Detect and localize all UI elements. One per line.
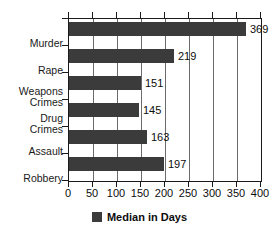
plot-area: 369 219 151 145 163 197 <box>68 18 262 182</box>
bar-value-rape: 219 <box>178 49 196 63</box>
category-label-rape: Rape <box>0 65 63 76</box>
bar-murder <box>69 22 246 36</box>
x-tick-label-150: 150 <box>131 187 149 200</box>
category-axis: Murder Rape Weapons Crimes Drug Crimes A… <box>0 18 66 180</box>
x-tick-label-300: 300 <box>203 187 221 200</box>
x-axis-labels: 0 50 100 150 200 250 300 350 400 <box>0 187 279 201</box>
bar-weapons-crimes <box>69 76 141 90</box>
x-tick-label-100: 100 <box>107 187 125 200</box>
bar-value-murder: 369 <box>250 22 268 36</box>
x-tick-label-50: 50 <box>86 187 98 200</box>
category-label-assault: Assault <box>0 146 63 157</box>
x-tick-label-400: 400 <box>251 187 269 200</box>
category-label-drug-crimes: Drug Crimes <box>0 113 63 135</box>
x-tick-label-350: 350 <box>227 187 245 200</box>
bar-value-assault: 163 <box>151 130 169 144</box>
bars-layer: 369 219 151 145 163 197 <box>69 19 261 181</box>
bar-chart: Murder Rape Weapons Crimes Drug Crimes A… <box>0 0 279 233</box>
category-label-robbery: Robbery <box>0 173 63 184</box>
bar-value-weapons-crimes: 151 <box>145 76 163 90</box>
bar-robbery <box>69 157 164 171</box>
bar-assault <box>69 130 147 144</box>
x-tick-label-0: 0 <box>65 187 71 200</box>
bar-rape <box>69 49 174 63</box>
bar-value-drug-crimes: 145 <box>143 103 161 117</box>
legend: Median in Days <box>0 208 279 226</box>
x-tick-label-200: 200 <box>155 187 173 200</box>
bar-drug-crimes <box>69 103 139 117</box>
legend-swatch-median-in-days <box>92 212 102 222</box>
legend-label-median-in-days: Median in Days <box>107 211 187 223</box>
category-label-weapons-crimes: Weapons Crimes <box>0 86 63 108</box>
bar-value-robbery: 197 <box>168 157 186 171</box>
category-label-murder: Murder <box>0 38 63 49</box>
x-tick-label-250: 250 <box>179 187 197 200</box>
